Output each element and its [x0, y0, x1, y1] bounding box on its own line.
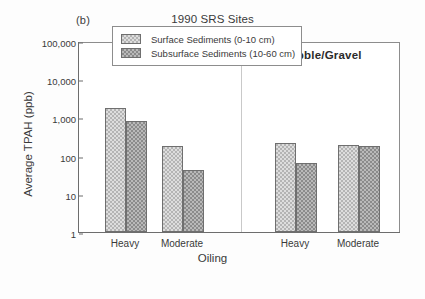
y-axis-tick-label: 100	[60, 152, 79, 163]
chart-title: 1990 SRS Sites	[0, 13, 425, 25]
x-axis-tick-label: Moderate	[337, 238, 379, 249]
chart-figure: (b) 1990 SRS Sites Average TPAH (ppb) 10…	[0, 0, 425, 299]
bar-surface	[105, 108, 126, 232]
y-axis-tick-label: 10	[65, 190, 79, 201]
plot-area: 100,00010,0001,000100101 Boulder/CobbleP…	[78, 42, 400, 233]
bar-surface	[338, 145, 359, 232]
y-axis-tick: 10,000	[47, 76, 79, 87]
y-axis-tick-mark	[79, 234, 83, 235]
y-axis-tick-mark	[79, 81, 83, 82]
bar-subsurface	[126, 121, 147, 232]
x-axis-tick-label: Moderate	[161, 238, 203, 249]
y-axis-tick-mark	[79, 119, 83, 120]
legend-label-surface: Surface Sediments (0-10 cm)	[151, 34, 275, 45]
y-axis-tick-label: 1,000	[52, 114, 79, 125]
bar-surface	[162, 146, 183, 232]
y-axis-tick-label: 10,000	[47, 76, 79, 87]
legend-item-surface: Surface Sediments (0-10 cm)	[121, 32, 295, 46]
y-axis-tick-mark	[79, 157, 83, 158]
x-axis-title: Oiling	[0, 252, 425, 264]
bar-surface	[275, 143, 296, 232]
y-axis-tick: 100	[60, 152, 79, 163]
bar-subsurface	[183, 170, 204, 232]
legend-swatch-subsurface-icon	[121, 48, 141, 58]
y-axis-tick-label: 100,000	[42, 38, 79, 49]
y-axis-tick: 1	[71, 229, 79, 240]
y-axis-tick-label: 1	[71, 229, 79, 240]
chart-legend: Surface Sediments (0-10 cm) Subsurface S…	[112, 26, 302, 66]
legend-item-subsurface: Subsurface Sediments (10-60 cm)	[121, 46, 295, 60]
y-axis-tick-mark	[79, 43, 83, 44]
x-axis-tick-label: Heavy	[111, 238, 139, 249]
y-axis-tick: 1,000	[52, 114, 79, 125]
group-divider	[241, 43, 242, 232]
y-axis-tick-mark	[79, 195, 83, 196]
legend-swatch-surface-icon	[121, 34, 141, 44]
y-axis-title: Average TPAH (ppb)	[22, 54, 34, 234]
y-axis-tick: 100,000	[42, 38, 79, 49]
legend-label-subsurface: Subsurface Sediments (10-60 cm)	[151, 48, 295, 59]
y-axis-tick: 10	[65, 190, 79, 201]
bar-subsurface	[359, 146, 380, 232]
bar-subsurface	[296, 163, 317, 232]
x-axis-tick-label: Heavy	[281, 238, 309, 249]
